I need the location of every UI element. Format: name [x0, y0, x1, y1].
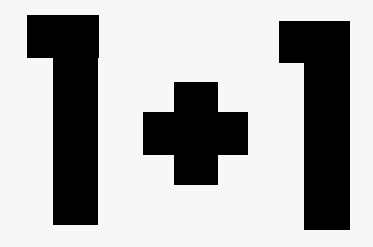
plus-horizontal-bar: [143, 112, 248, 155]
digit-one-left-stem: [53, 15, 98, 225]
equation-graphic: [0, 0, 373, 247]
digit-one-right-stem: [304, 21, 350, 230]
